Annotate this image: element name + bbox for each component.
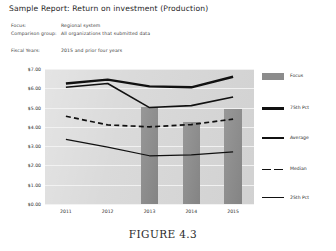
report-page: Sample Report: Return on investment (Pro… <box>0 0 336 251</box>
figure-caption: FIGURE 4.3 <box>0 228 336 240</box>
legend-item-label: Median <box>290 166 307 171</box>
x-axis-tick-label: 2011 <box>60 209 72 214</box>
meta-value-fiscal-years: 2015 and prior four years <box>61 47 261 55</box>
figure-caption-text: FIGURE 4.3 <box>129 228 197 240</box>
legend-item-label: 25th Pct <box>290 195 309 200</box>
y-axis-tick-label: $4.00 <box>28 124 41 129</box>
x-axis-tick-label: 2015 <box>227 209 239 214</box>
legend-item[interactable]: Median <box>262 165 334 175</box>
y-axis-tick-label: $7.00 <box>28 67 41 72</box>
legend-item-label: 75th Pct <box>290 105 309 110</box>
meta-label-focus: Focus: <box>11 22 61 30</box>
y-axis-tick-label: $3.00 <box>28 144 41 149</box>
chart-series-line <box>66 139 233 155</box>
x-axis-tick-label: 2014 <box>185 209 197 214</box>
y-axis-tick-label: $2.00 <box>28 163 41 168</box>
report-fiscal-years: Fiscal Years: 2015 and prior four years <box>11 47 261 55</box>
legend-swatch-line-icon <box>262 137 284 139</box>
chart-plot-area <box>45 69 254 204</box>
x-axis-labels: 20112012201320142015 <box>45 209 254 219</box>
legend-swatch-line-icon <box>262 197 284 198</box>
meta-value-focus: Regional system <box>61 22 261 30</box>
x-axis-tick-label: 2012 <box>102 209 114 214</box>
chart-lines <box>45 69 254 204</box>
legend-item-label: Focus <box>290 73 303 78</box>
meta-label-fiscal-years: Fiscal Years: <box>11 47 61 55</box>
y-axis-tick-label: $0.00 <box>28 202 41 207</box>
gridline <box>45 204 254 205</box>
y-axis-tick-label: $1.00 <box>28 182 41 187</box>
y-axis-tick-label: $5.00 <box>28 105 41 110</box>
page-title: Sample Report: Return on investment (Pro… <box>9 4 208 13</box>
legend-item[interactable]: 25th Pct <box>262 194 334 204</box>
meta-label-comparison-group: Comparison group: <box>11 30 61 38</box>
legend-swatch-dash-icon <box>262 169 271 171</box>
y-axis-labels: $7.00$6.00$5.00$4.00$3.00$2.00$1.00$0.00 <box>12 69 41 204</box>
meta-row-fiscal-years: Fiscal Years: 2015 and prior four years <box>11 47 261 55</box>
report-meta: Focus: Regional system Comparison group:… <box>11 22 261 39</box>
meta-value-comparison-group: All organizations that submitted data <box>61 30 261 38</box>
legend-swatch-bar-icon <box>262 73 284 80</box>
legend-swatch-line-icon <box>262 107 284 110</box>
meta-row-comparison-group: Comparison group: All organizations that… <box>11 30 261 38</box>
legend-item[interactable]: Focus <box>262 72 334 82</box>
legend-item[interactable]: Average <box>262 134 334 144</box>
y-axis-tick-label: $6.00 <box>28 86 41 91</box>
x-axis-tick-label: 2013 <box>144 209 156 214</box>
legend-swatch-dash-icon <box>274 169 283 171</box>
meta-row-focus: Focus: Regional system <box>11 22 261 30</box>
legend-item-label: Average <box>290 135 309 140</box>
legend-item[interactable]: 75th Pct <box>262 104 334 114</box>
chart-series-line <box>66 116 233 127</box>
